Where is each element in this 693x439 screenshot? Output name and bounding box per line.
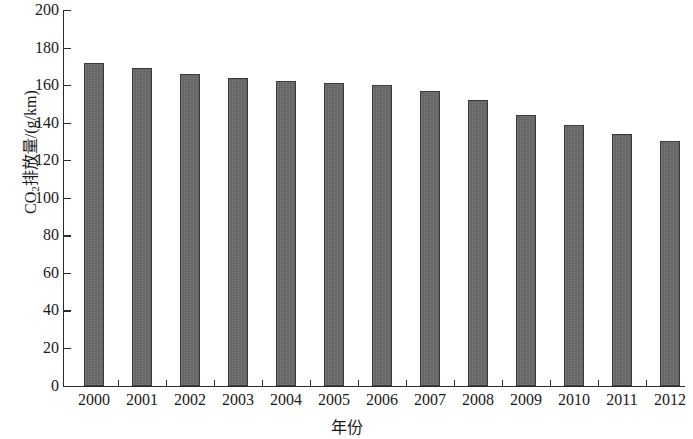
y-axis-tick-label: 100 — [35, 190, 59, 206]
y-axis-tick: 120 — [64, 160, 71, 161]
x-axis-tick-label: 2010 — [558, 392, 590, 408]
bar — [468, 100, 488, 385]
x-axis-tick-label: 2004 — [270, 392, 302, 408]
bar — [276, 81, 296, 385]
plot-area: 020406080100120140160180200 — [63, 10, 685, 387]
y-axis-tick: 160 — [64, 85, 71, 86]
x-axis-tick — [598, 380, 599, 386]
bar — [660, 141, 680, 385]
x-axis-tick — [166, 380, 167, 386]
bar — [612, 134, 632, 386]
x-axis-tick-label: 2002 — [174, 392, 206, 408]
y-axis-tick-label: 140 — [35, 115, 59, 131]
bar — [180, 74, 200, 386]
y-axis-tick: 100 — [64, 198, 71, 199]
x-axis-title: 年份 — [0, 414, 693, 438]
x-axis-tick — [262, 380, 263, 386]
bar — [564, 125, 584, 386]
x-axis-tick — [406, 380, 407, 386]
bar — [516, 115, 536, 385]
y-axis-tick-label: 0 — [51, 377, 59, 393]
x-axis-tick-label: 2006 — [366, 392, 398, 408]
y-axis-tick: 40 — [64, 310, 71, 311]
x-axis-tick-label: 2003 — [222, 392, 254, 408]
y-axis-tick-label: 20 — [43, 340, 59, 356]
bar — [420, 91, 440, 386]
y-axis-tick: 80 — [64, 235, 71, 236]
x-axis-tick — [454, 380, 455, 386]
x-axis-tick — [310, 380, 311, 386]
bar — [84, 63, 104, 386]
x-axis-tick — [358, 380, 359, 386]
bar-chart: CO2排放量/(g/km) 02040608010012014016018020… — [0, 0, 693, 439]
x-axis-line — [63, 386, 685, 387]
bar — [132, 68, 152, 385]
y-axis-tick: 20 — [64, 348, 71, 349]
x-axis-tick-label: 2001 — [126, 392, 158, 408]
y-axis-tick: 200 — [64, 10, 71, 11]
x-axis-tick-label: 2009 — [510, 392, 542, 408]
x-axis-tick-label: 2007 — [414, 392, 446, 408]
y-axis-tick: 140 — [64, 123, 71, 124]
bar — [228, 78, 248, 386]
y-axis-tick-label: 120 — [35, 152, 59, 168]
bar — [324, 83, 344, 385]
y-axis-tick-label: 80 — [43, 227, 59, 243]
y-axis-tick-label: 180 — [35, 39, 59, 55]
y-axis-tick-label: 60 — [43, 265, 59, 281]
x-axis-tick-label: 2011 — [606, 392, 637, 408]
y-axis-tick-label: 160 — [35, 77, 59, 93]
y-axis-tick: 0 — [64, 386, 71, 387]
x-axis-tick — [550, 380, 551, 386]
x-axis-tick — [646, 380, 647, 386]
x-axis-tick-label: 2008 — [462, 392, 494, 408]
y-axis-tick-label: 200 — [35, 2, 59, 18]
x-axis-tick-label: 2000 — [78, 392, 110, 408]
y-axis-tick: 180 — [64, 48, 71, 49]
x-axis-tick-label: 2005 — [318, 392, 350, 408]
x-axis-tick — [502, 380, 503, 386]
y-axis-tick-label: 40 — [43, 302, 59, 318]
x-axis-tick — [118, 380, 119, 386]
y-axis-tick: 60 — [64, 273, 71, 274]
bar — [372, 85, 392, 385]
x-axis-tick-label: 2012 — [654, 392, 686, 408]
x-axis-tick — [214, 380, 215, 386]
y-axis-title-suffix: 排放量/(g/km) — [22, 90, 39, 186]
